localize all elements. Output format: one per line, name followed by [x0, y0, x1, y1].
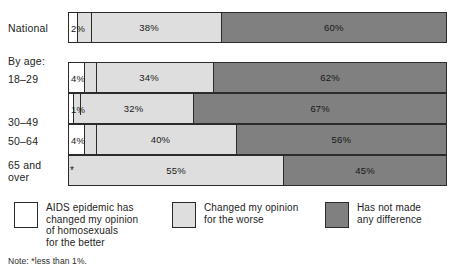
- legend-label-worse: Changed my opinion for the worse: [204, 202, 298, 225]
- segment-18-29-worse: 34%: [84, 63, 213, 92]
- value-tick-national: [91, 12, 92, 43]
- legend-label-better: AIDS epidemic has changed my opinion of …: [46, 202, 138, 248]
- segment-national-worse: 38%: [77, 13, 221, 42]
- segment-label-30-49-worse: 32%: [124, 103, 144, 114]
- row-label-national: National: [8, 23, 48, 35]
- row-label-50-64: 50–64: [8, 136, 38, 148]
- segment-label-30-49-better: 1%: [71, 103, 85, 114]
- segment-50-64-better: 4%: [69, 125, 84, 154]
- segment-label-national-better: 2%: [71, 22, 85, 33]
- row-label-65-over: 65 and over: [8, 160, 41, 183]
- group-label-by-age: By age:: [8, 56, 45, 68]
- segment-30-49-worse: 32%: [73, 94, 194, 123]
- segment-national-nodiff: 60%: [221, 13, 446, 42]
- stacked-bar-chart: National 2% 38% 60% By age: 18–29 4% 34%…: [0, 0, 456, 274]
- segment-label-18-29-better: 4%: [71, 72, 85, 83]
- segment-18-29-better: 4%: [69, 63, 84, 92]
- bar-65-over: 55% 45%: [68, 155, 447, 186]
- row-label-18-29: 18–29: [8, 74, 38, 86]
- bar-50-64: 4% 40% 56%: [68, 124, 447, 155]
- value-tick-50-64: [96, 124, 97, 155]
- value-tick-18-29: [96, 62, 97, 93]
- segment-label-national-nodiff: 60%: [324, 22, 344, 33]
- segment-label-65-over-nodiff: 45%: [355, 165, 375, 176]
- segment-18-29-nodiff: 62%: [213, 63, 446, 92]
- segment-65-over-nodiff: 45%: [283, 156, 446, 185]
- segment-label-national-worse: 38%: [139, 22, 159, 33]
- white-swatch-icon: [14, 202, 38, 228]
- bar-18-29: 4% 34% 62%: [68, 62, 447, 93]
- segment-national-better: 2%: [69, 13, 77, 42]
- segment-label-50-64-worse: 40%: [151, 134, 171, 145]
- chart-note: Note: *less than 1%.: [8, 256, 87, 266]
- segment-label-18-29-worse: 34%: [139, 72, 159, 83]
- segment-label-50-64-better: 4%: [71, 134, 85, 145]
- segment-label-30-49-nodiff: 67%: [310, 103, 330, 114]
- segment-50-64-worse: 40%: [84, 125, 236, 154]
- legend-label-nodiff: Has not made any difference: [357, 202, 422, 225]
- segment-label-18-29-nodiff: 62%: [320, 72, 340, 83]
- segment-label-65-over-worse: 55%: [166, 165, 186, 176]
- dark-gray-swatch-icon: [325, 202, 349, 228]
- bar-30-49: 1% 32% 67%: [68, 93, 447, 124]
- segment-label-65-over-better: *: [70, 166, 74, 176]
- legend-item-better: AIDS epidemic has changed my opinion of …: [14, 202, 154, 248]
- row-label-30-49: 30–49: [8, 117, 38, 129]
- light-gray-swatch-icon: [172, 202, 196, 228]
- segment-65-over-worse: 55%: [69, 156, 283, 185]
- segment-30-49-nodiff: 67%: [193, 94, 446, 123]
- segment-label-50-64-nodiff: 56%: [332, 134, 352, 145]
- bar-national: 2% 38% 60%: [68, 12, 447, 43]
- segment-50-64-nodiff: 56%: [236, 125, 446, 154]
- legend-item-nodiff: Has not made any difference: [325, 202, 453, 228]
- legend-item-worse: Changed my opinion for the worse: [172, 202, 317, 228]
